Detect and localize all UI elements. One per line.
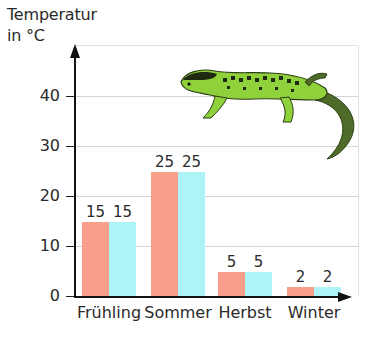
lizard-illustration <box>175 62 370 162</box>
bar-sommer-a <box>151 172 178 297</box>
value-label-fruehling-b: 15 <box>109 203 136 221</box>
value-label-winter-a: 2 <box>287 268 314 286</box>
tick-label-30: 30 <box>20 137 60 155</box>
category-label-fruehling: Frühling <box>69 303 149 323</box>
bar-herbst-a <box>218 272 245 297</box>
value-label-herbst-a: 5 <box>218 253 245 271</box>
y-axis-arrow-icon <box>70 44 80 58</box>
bar-fruehling-a <box>82 222 109 297</box>
bar-herbst-b <box>245 272 272 297</box>
value-label-sommer-b: 25 <box>178 153 205 171</box>
value-label-sommer-a: 25 <box>151 153 178 171</box>
gridline-20 <box>75 196 358 197</box>
category-label-herbst: Herbst <box>205 303 285 323</box>
x-axis-arrow-icon <box>338 292 352 302</box>
value-label-winter-b: 2 <box>314 268 341 286</box>
value-label-fruehling-a: 15 <box>82 203 109 221</box>
y-axis-title: Temperatur in °C <box>7 4 97 46</box>
bar-sommer-b <box>178 172 205 297</box>
tick-label-10: 10 <box>20 237 60 255</box>
tick-label-40: 40 <box>20 87 60 105</box>
tick-label-0: 0 <box>20 287 60 305</box>
y-axis <box>74 52 76 298</box>
category-label-winter: Winter <box>274 303 354 323</box>
y-axis-title-line2: in °C <box>7 25 97 46</box>
tick-label-20: 20 <box>20 187 60 205</box>
x-axis <box>74 296 340 298</box>
bar-fruehling-b <box>109 222 136 297</box>
grid-top-border <box>75 45 358 46</box>
y-axis-title-line1: Temperatur <box>7 4 97 25</box>
value-label-herbst-b: 5 <box>245 253 272 271</box>
